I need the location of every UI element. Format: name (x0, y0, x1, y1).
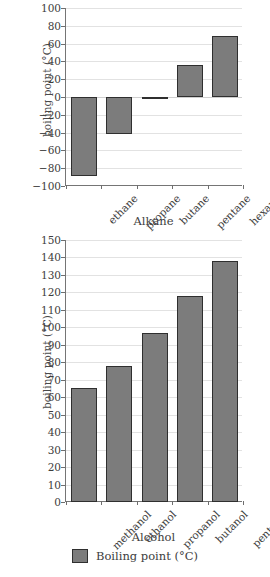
gridline (66, 26, 242, 27)
chart-alcohol-y-ticks: 1501401301201101009080706050403020100 (21, 240, 61, 502)
y-tick-label: 100 (41, 3, 61, 13)
y-tick-label: 140 (41, 252, 61, 262)
chart-alkane-y-ticks: 100806040200−20−40−60−80−100 (21, 8, 61, 186)
y-tick-label: −20 (39, 110, 61, 120)
y-tick-label: −40 (39, 128, 61, 138)
legend-label-boiling-point: Boiling point (°C) (96, 549, 198, 563)
x-tick-mark (101, 185, 102, 189)
y-tick-label: 90 (48, 340, 61, 350)
bar (142, 97, 168, 99)
y-tick-label: 40 (48, 427, 61, 437)
y-tick-label: 60 (48, 39, 61, 49)
y-tick-label: 110 (41, 305, 61, 315)
bar (142, 333, 168, 502)
chart-alcohol-y-axis-title: boiling point (°C) (0, 302, 18, 422)
y-tick-label: 40 (48, 56, 61, 66)
x-category-label: hexane (247, 192, 270, 227)
y-tick-label: 50 (48, 410, 61, 420)
chart-alkane-y-axis-title: boiling point (°C) (0, 40, 18, 140)
bar (71, 97, 97, 176)
bar (106, 366, 132, 502)
y-tick-label: 20 (48, 462, 61, 472)
y-tick-label: 30 (48, 445, 61, 455)
gridline (66, 240, 242, 241)
chart-alcohol: boiling point (°C) 150140130120110100908… (0, 232, 270, 542)
y-tick-label: 70 (48, 375, 61, 385)
x-tick-mark (137, 185, 138, 189)
x-tick-mark (243, 501, 244, 505)
bar (177, 65, 203, 97)
legend-swatch-boiling-point (72, 549, 88, 563)
chart-legend: Boiling point (°C) (0, 549, 270, 563)
y-tick-label: 80 (48, 21, 61, 31)
gridline (66, 257, 242, 258)
chart-alkane-plot-area (65, 8, 242, 186)
gridline (66, 8, 242, 9)
y-tick-label: 0 (54, 497, 61, 507)
y-tick-label: −100 (32, 181, 61, 191)
chart-alkane: boiling point (°C) 100806040200−20−40−60… (0, 0, 270, 232)
bar (71, 388, 97, 502)
chart-alcohol-x-axis-title: Alcohol (65, 530, 242, 544)
bar (212, 36, 238, 97)
x-tick-mark (172, 185, 173, 189)
chart-alcohol-plot-area (65, 240, 242, 502)
y-tick-label: 0 (54, 92, 61, 102)
y-tick-label: 150 (41, 235, 61, 245)
chart-page: boiling point (°C) 100806040200−20−40−60… (0, 0, 270, 577)
chart-alkane-x-axis-title: Alkane (65, 214, 242, 228)
x-tick-mark (66, 501, 67, 505)
y-tick-label: 80 (48, 357, 61, 367)
y-tick-label: −60 (39, 145, 61, 155)
x-tick-mark (101, 501, 102, 505)
x-tick-mark (172, 501, 173, 505)
x-tick-mark (208, 501, 209, 505)
x-tick-mark (137, 501, 138, 505)
y-tick-label: −80 (39, 163, 61, 173)
x-tick-mark (66, 185, 67, 189)
bar (177, 296, 203, 502)
y-tick-label: 120 (41, 287, 61, 297)
bar (212, 261, 238, 502)
y-tick-label: 10 (48, 480, 61, 490)
x-tick-mark (243, 185, 244, 189)
x-tick-mark (208, 185, 209, 189)
y-tick-label: 60 (48, 392, 61, 402)
y-tick-label: 100 (41, 322, 61, 332)
y-tick-label: 130 (41, 270, 61, 280)
x-category-label: pentanol (250, 508, 270, 549)
bar (106, 97, 132, 134)
y-tick-label: 20 (48, 74, 61, 84)
